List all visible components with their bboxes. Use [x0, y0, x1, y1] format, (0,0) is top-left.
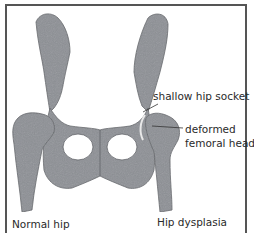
caption-hip-dysplasia: Hip dysplasia	[157, 216, 227, 228]
pelvic-body	[43, 108, 155, 188]
left-foramen	[63, 134, 93, 160]
right-foramen	[107, 134, 137, 160]
label-shallow-hip-socket: shallow hip socket	[153, 90, 249, 102]
pelvis-illustration	[0, 0, 254, 233]
caption-normal-hip: Normal hip	[12, 218, 70, 230]
left-ilium	[36, 14, 70, 112]
label-femoral-head: femoral head	[185, 137, 254, 149]
label-deformed: deformed	[185, 123, 236, 135]
